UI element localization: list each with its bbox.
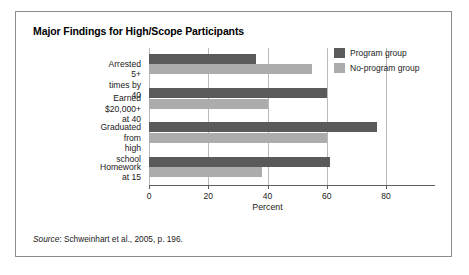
x-axis-title: Percent [149,202,386,212]
x-tick-label: 20 [204,191,213,201]
legend-swatch-icon [334,63,345,73]
source-label: Source [33,234,59,244]
chart-category-row: Homework at 15 [149,151,435,185]
x-tick-label: 0 [147,191,152,201]
legend-label: No-program group [350,63,419,73]
x-tick-label: 60 [322,191,331,201]
x-tick [149,185,150,189]
x-tick [386,185,387,189]
x-tick [327,185,328,189]
x-tick-label: 80 [381,191,390,201]
chart-title: Major Findings for High/Scope Participan… [33,25,244,37]
source-note: Source: Schweinhart et al., 2005, p. 196… [33,234,183,244]
legend-label: Program group [350,48,407,58]
bar-program [149,54,256,64]
bar-no-program [149,99,268,109]
bar-program [149,88,327,98]
category-label: Graduated from high school [100,122,141,164]
chart-legend: Program groupNo-program group [334,47,419,77]
x-tick [208,185,209,189]
legend-entry: No-program group [334,62,419,74]
bar-no-program [149,64,312,74]
bar-no-program [149,167,262,177]
category-label: Earned $20,000+ at 40 [105,93,141,125]
x-tick [268,185,269,189]
bar-program [149,157,330,167]
x-tick-label: 40 [263,191,272,201]
bar-program [149,122,377,132]
chart-category-row: Graduated from high school [149,117,435,151]
chart-category-row: Earned $20,000+ at 40 [149,82,435,116]
figure-frame: Major Findings for High/Scope Participan… [15,11,452,257]
source-citation: : Schweinhart et al., 2005, p. 196. [59,234,183,244]
legend-swatch-icon [334,48,345,58]
bar-no-program [149,133,327,143]
legend-entry: Program group [334,47,419,59]
x-axis-line [149,185,435,186]
category-label: Homework at 15 [100,162,141,183]
